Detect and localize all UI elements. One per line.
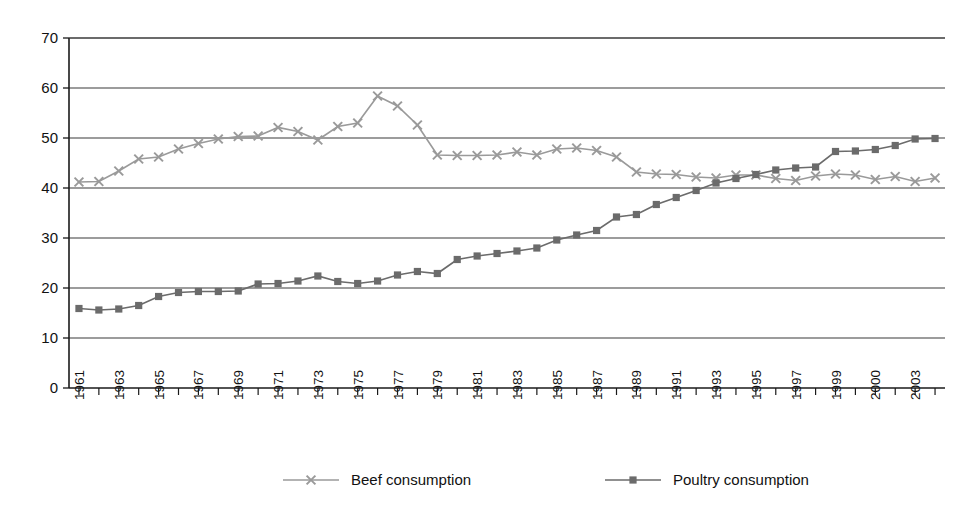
chart-container: 010203040506070 196119631965196719691971… [0,0,980,508]
poultry-marker [931,135,938,142]
poultry-marker [394,271,401,278]
poultry-marker [493,250,500,257]
legend-item[interactable]: Poultry consumption [605,471,809,488]
y-axis-labels: 010203040506070 [41,29,58,396]
x-axis-tick-label: 1967 [191,370,206,400]
series-beef [75,92,940,187]
x-axis-tick-label: 1969 [231,370,246,400]
x-axis-tick-label: 2000 [868,370,883,400]
x-axis-tick-label: 1985 [550,370,565,400]
poultry-marker [235,287,242,294]
poultry-marker [593,227,600,234]
poultry-marker [75,305,82,312]
y-axis-tick-label: 0 [50,379,58,396]
data-series [75,92,940,314]
poultry-marker [629,476,636,483]
x-axis-tick-label: 1987 [590,370,605,400]
poultry-marker [673,194,680,201]
poultry-marker [95,306,102,313]
poultry-marker [573,231,580,238]
poultry-marker [792,164,799,171]
poultry-marker [454,256,461,263]
poultry-marker [852,147,859,154]
x-axis-tick-label: 1993 [709,370,724,400]
x-axis-tick-label: 1975 [351,370,366,400]
poultry-marker [513,247,520,254]
x-axis-tick-label: 1989 [629,370,644,400]
poultry-marker [314,272,321,279]
y-axis-tick-label: 50 [41,129,58,146]
x-axis-tick-label: 1995 [749,370,764,400]
poultry-marker [553,236,560,243]
poultry-marker [892,142,899,149]
poultry-marker [115,305,122,312]
poultry-marker [832,148,839,155]
legend-label: Beef consumption [351,471,471,488]
poultry-marker [752,171,759,178]
y-axis-tick-label: 70 [41,29,58,46]
x-axis-tick-label: 1999 [829,370,844,400]
poultry-marker [912,135,919,142]
line-chart: 010203040506070 196119631965196719691971… [0,0,980,508]
y-axis-ticks [63,38,69,388]
x-axis-tick-label: 1961 [72,370,87,400]
x-axis-tick-label: 1965 [152,370,167,400]
poultry-marker [374,277,381,284]
axes [69,38,945,388]
poultry-marker [175,289,182,296]
y-axis-tick-label: 10 [41,329,58,346]
poultry-marker [135,302,142,309]
legend-item[interactable]: Beef consumption [283,471,471,488]
poultry-marker [195,288,202,295]
y-axis-tick-label: 20 [41,279,58,296]
x-axis-tick-label: 1981 [470,370,485,400]
x-axis-tick-label: 1971 [271,370,286,400]
x-axis-tick-label: 1977 [391,370,406,400]
series-poultry [75,135,938,314]
poultry-marker [334,278,341,285]
poultry-marker [613,213,620,220]
poultry-marker [653,201,660,208]
poultry-marker [872,146,879,153]
poultry-marker [533,244,540,251]
x-axis-tick-label: 2003 [908,370,923,400]
poultry-marker [294,277,301,284]
x-axis-tick-label: 1973 [311,370,326,400]
x-axis-tick-label: 1997 [789,370,804,400]
x-axis-ticks [79,388,935,395]
poultry-marker [693,187,700,194]
y-axis-tick-label: 40 [41,179,58,196]
poultry-marker [712,179,719,186]
poultry-marker [414,268,421,275]
x-axis-tick-label: 1979 [430,370,445,400]
y-axis-tick-label: 30 [41,229,58,246]
poultry-marker [732,175,739,182]
poultry-marker [215,288,222,295]
x-axis-tick-label: 1963 [112,370,127,400]
x-axis-labels: 1961196319651967196919711973197519771979… [72,370,923,400]
poultry-marker [155,293,162,300]
chart-legend: Beef consumptionPoultry consumption [283,471,809,488]
poultry-marker [274,280,281,287]
poultry-marker [354,280,361,287]
series-line [79,139,935,311]
y-axis-tick-label: 60 [41,79,58,96]
poultry-marker [633,211,640,218]
poultry-marker [434,270,441,277]
poultry-marker [772,166,779,173]
x-axis-tick-label: 1983 [510,370,525,400]
poultry-marker [812,163,819,170]
poultry-marker [474,252,481,259]
poultry-marker [255,280,262,287]
legend-label: Poultry consumption [673,471,809,488]
series-line [79,96,935,182]
x-axis-tick-label: 1991 [669,370,684,400]
